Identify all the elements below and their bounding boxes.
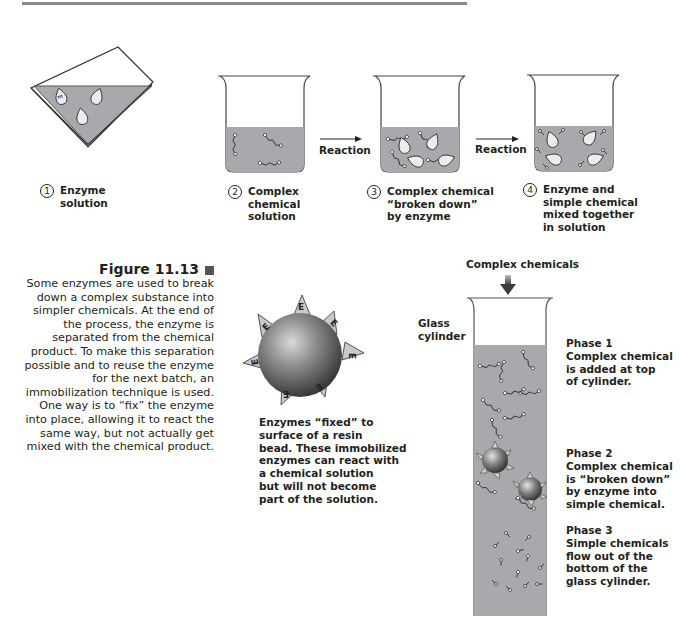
phase-line: is “broken down” bbox=[566, 473, 673, 486]
step-2-line: Complex bbox=[248, 185, 300, 198]
resin-bead: E E E E E E E bbox=[243, 295, 364, 405]
phase-line: bottom of the bbox=[566, 562, 669, 575]
glass-cylinder-line: cylinder bbox=[418, 330, 466, 343]
phase-3: Phase 3 Simple chemicals flow out of the… bbox=[566, 524, 669, 588]
caption-line: product. To make this separation bbox=[10, 345, 214, 359]
step-4-line: in solution bbox=[543, 221, 638, 234]
caption-line: the process, the enzyme is bbox=[10, 318, 214, 332]
phase-line: by enzyme into bbox=[566, 485, 673, 498]
glass-cylinder-label: Glass cylinder bbox=[418, 317, 466, 342]
step-2-line: solution bbox=[248, 210, 300, 223]
beaker-enzyme-simple-chemical bbox=[527, 75, 619, 171]
caption-line: One way is to “fix” the enzyme bbox=[10, 399, 214, 413]
step-3-line: by enzyme bbox=[387, 210, 494, 223]
caption-line: into place, allowing it to react the bbox=[10, 413, 214, 427]
step-number-3: 3 bbox=[367, 185, 381, 199]
step-3-label: 3 Complex chemical “broken down” by enzy… bbox=[367, 185, 494, 223]
caption-square-icon bbox=[205, 266, 214, 275]
step-3-line: Complex chemical bbox=[387, 185, 494, 198]
svg-text:E: E bbox=[283, 389, 289, 399]
step-number-4: 4 bbox=[523, 183, 537, 197]
caption-line: same way, but not actually get bbox=[10, 427, 214, 441]
phase-line: is added at top bbox=[566, 363, 673, 376]
bead-line: but will not become bbox=[259, 480, 406, 493]
glass-cylinder-line: Glass bbox=[418, 317, 466, 330]
phase-line: glass cylinder. bbox=[566, 575, 669, 588]
step-1-label: 1 Enzyme solution bbox=[40, 184, 108, 209]
phase-title: Phase 2 bbox=[566, 447, 673, 460]
phase-1: Phase 1 Complex chemical is added at top… bbox=[566, 337, 673, 388]
step-4-label: 4 Enzyme and simple chemical mixed toget… bbox=[523, 183, 638, 233]
bead-description: Enzymes “fixed” to surface of a resin be… bbox=[259, 416, 406, 506]
step-number-2: 2 bbox=[228, 185, 242, 199]
bead-line: part of the solution. bbox=[259, 493, 406, 506]
caption-line: for the next batch, an bbox=[10, 372, 214, 386]
step-4-line: mixed together bbox=[543, 208, 638, 221]
phase-line: Complex chemical bbox=[566, 350, 673, 363]
phase-2: Phase 2 Complex chemical is “broken down… bbox=[566, 447, 673, 511]
phase-line: Simple chemicals bbox=[566, 537, 669, 550]
reaction-arrow-label-2: Reaction bbox=[475, 143, 527, 155]
step-2-line: chemical bbox=[248, 198, 300, 211]
caption-line: immobilization technique is used. bbox=[10, 386, 214, 400]
svg-text:E: E bbox=[347, 353, 357, 359]
phase-title: Phase 3 bbox=[566, 524, 669, 537]
bead-line: bead. These immobilized bbox=[259, 442, 406, 455]
svg-text:E: E bbox=[298, 302, 304, 312]
step-number-1: 1 bbox=[40, 184, 54, 198]
caption-line: separated from the chemical bbox=[10, 331, 214, 345]
step-2-label: 2 Complex chemical solution bbox=[228, 185, 300, 223]
phase-line: Complex chemical bbox=[566, 460, 673, 473]
step-3-line: “broken down” bbox=[387, 198, 494, 211]
caption-line: mixed with the chemical product. bbox=[10, 440, 214, 454]
glass-cylinder bbox=[467, 298, 553, 616]
bead-line: surface of a resin bbox=[259, 429, 406, 442]
bead-line: a chemical solution bbox=[259, 467, 406, 480]
bead-line: enzymes can react with bbox=[259, 454, 406, 467]
step-1-line: solution bbox=[60, 197, 108, 210]
caption-body: Some enzymes are used to break down a co… bbox=[10, 277, 214, 454]
caption-line: Some enzymes are used to break bbox=[10, 277, 214, 291]
step-4-line: simple chemical bbox=[543, 196, 638, 209]
beaker-complex-chemical bbox=[218, 76, 310, 172]
figure-title: Figure 11.13 bbox=[10, 261, 214, 277]
reaction-arrow-label-1: Reaction bbox=[319, 144, 371, 156]
step-4-line: Enzyme and bbox=[543, 183, 638, 196]
phase-title: Phase 1 bbox=[566, 337, 673, 350]
caption-line: possible and to reuse the enzyme bbox=[10, 359, 214, 373]
beaker-broken-down bbox=[373, 76, 465, 172]
figure-caption: Figure 11.13 Some enzymes are used to br… bbox=[10, 261, 214, 454]
phase-line: flow out of the bbox=[566, 550, 669, 563]
caption-line: down a complex substance into bbox=[10, 291, 214, 305]
beaker-enzyme-solution: E bbox=[31, 47, 153, 147]
step-1-line: Enzyme bbox=[60, 184, 108, 197]
caption-line: simpler chemicals. At the end of bbox=[10, 304, 214, 318]
phase-line: simple chemical. bbox=[566, 498, 673, 511]
bead-line: Enzymes “fixed” to bbox=[259, 416, 406, 429]
phase-line: of cylinder. bbox=[566, 375, 673, 388]
complex-chemicals-label: Complex chemicals bbox=[466, 258, 579, 271]
